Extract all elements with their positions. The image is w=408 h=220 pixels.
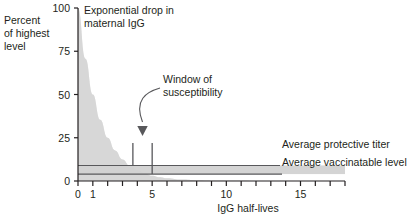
chart-background [0,0,408,220]
chart-title-line-2: maternal IgG [84,17,145,29]
x-tick-label: 5 [149,188,155,200]
chart-figure: 0255075100 0151015 Percent of highest le… [0,0,408,220]
y-tick-label: 75 [58,45,70,57]
x-axis-title: IgG half-lives [217,202,278,214]
y-tick-label: 50 [58,89,70,101]
x-tick-label: 1 [90,188,96,200]
window-label-line-2: susceptibility [163,86,223,98]
x-tick-label: 10 [220,188,232,200]
y-axis-title-line-3: level [4,40,26,52]
chart-title-line-1: Exponential drop in [84,4,174,16]
y-tick-label: 0 [64,175,70,187]
average-protective-titer-label: Average protective titer [282,138,390,150]
average-vaccinatable-level-label: Average vaccinatable level [282,156,407,168]
x-tick-label: 0 [75,188,81,200]
y-axis-title-line-1: Percent [4,14,40,26]
x-tick-label: 15 [295,188,307,200]
y-tick-label: 25 [58,132,70,144]
window-label-line-1: Window of [163,73,212,85]
y-tick-label: 100 [52,2,70,14]
y-axis-title-line-2: of highest [4,27,50,39]
